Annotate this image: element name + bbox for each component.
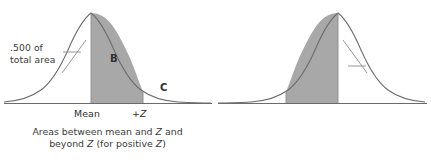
z-sign: + (132, 108, 140, 119)
caption-positive-z: Areas between mean and Z and beyond Z (f… (0, 126, 215, 151)
area-leader-line (62, 40, 86, 73)
panel-negative-z: .500 of total area B C –Z Mean Areas bet… (216, 0, 431, 163)
area-callout-line2: total area (10, 54, 55, 65)
caption-l1-a: Areas between mean and (32, 126, 155, 137)
region-label-b: B (110, 53, 118, 65)
shaded-area-b (286, 13, 338, 103)
area-callout-left: .500 of total area (10, 42, 55, 66)
axis-label-mean: Mean (74, 108, 100, 120)
caption-l2-c: ) (162, 138, 166, 149)
caption-line2: beyond Z (for positive Z) (49, 138, 166, 149)
caption-line1: Areas between mean and Z and (32, 126, 182, 137)
caption-l2-a: beyond (49, 138, 87, 149)
z-symbol: Z (140, 108, 147, 119)
caption-l1-b: and (162, 126, 183, 137)
panel-positive-z: .500 of total area B C Mean +Z Areas bet… (0, 0, 215, 163)
area-callout-line1: .500 of (10, 42, 43, 53)
caption-l2-b: (for positive (93, 138, 155, 149)
negative-z-curve-graphic (216, 0, 431, 163)
normal-distribution-figure: .500 of total area B C Mean +Z Areas bet… (0, 0, 431, 163)
region-label-c: C (160, 82, 167, 94)
axis-label-z: +Z (132, 108, 147, 120)
area-leader-line (343, 40, 367, 73)
